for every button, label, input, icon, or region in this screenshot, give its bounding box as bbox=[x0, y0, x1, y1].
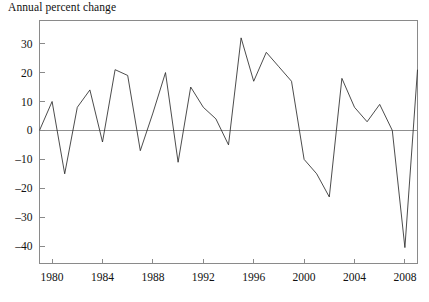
x-tick-label: 1988 bbox=[141, 271, 164, 283]
x-tick-label: 1980 bbox=[41, 271, 64, 283]
figure-container: Annual percent change 3020100–10–20–30–4… bbox=[0, 0, 429, 302]
data-series-group bbox=[40, 38, 418, 248]
y-tick-label: 10 bbox=[21, 96, 33, 108]
x-tick-label: 1996 bbox=[242, 271, 265, 283]
x-tick-label: 2004 bbox=[343, 271, 366, 283]
y-tick-label: 0 bbox=[27, 124, 33, 136]
data-series-line bbox=[40, 38, 418, 248]
y-tick-label: 20 bbox=[21, 67, 33, 79]
x-tick-label: 2008 bbox=[393, 271, 416, 283]
y-tick-label: –10 bbox=[14, 153, 33, 165]
y-tick-label: –40 bbox=[14, 240, 33, 252]
line-chart-plot: 3020100–10–20–30–40 19801984198819921996… bbox=[0, 0, 429, 302]
y-tick-label: –20 bbox=[14, 182, 33, 194]
y-tick-label: 30 bbox=[21, 38, 33, 50]
y-tick-label: –30 bbox=[14, 211, 33, 223]
x-axis-ticks: 19801984198819921996200020042008 bbox=[41, 259, 417, 283]
x-tick-label: 1984 bbox=[91, 271, 114, 283]
x-tick-label: 1992 bbox=[192, 271, 215, 283]
x-tick-label: 2000 bbox=[293, 271, 316, 283]
